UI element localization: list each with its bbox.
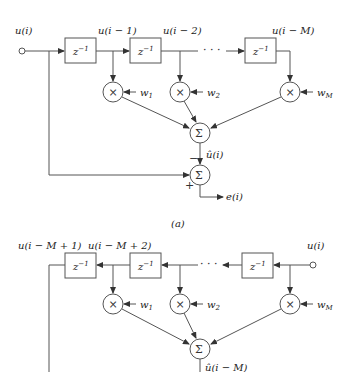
caption-a: (a) <box>171 218 185 229</box>
delay-block-b1: z−1 <box>65 253 96 278</box>
tap-label-m-plus-1: u(i − M + 1) <box>18 240 82 251</box>
ellipsis: · · · <box>203 44 220 57</box>
multiplier-b2: × <box>170 294 190 314</box>
multiplier-1: × <box>103 82 123 102</box>
svg-text:×: × <box>109 298 118 311</box>
summer-2: Σ <box>190 165 210 185</box>
tap-label-1: u(i − 1) <box>98 25 137 36</box>
tap-label-m: u(i − M) <box>272 25 315 36</box>
weight-m: wM <box>317 87 334 100</box>
multiplier-2: × <box>170 82 190 102</box>
weight-b1: w1 <box>140 299 153 312</box>
weight-1: w1 <box>140 87 153 100</box>
multiplier-bm: × <box>280 294 300 314</box>
prediction-filter-diagrams: u(i) · · · z−1 z−1 z−1 u(i − 1) u(i − 2)… <box>0 0 361 372</box>
input-node <box>19 48 25 54</box>
svg-text:×: × <box>176 86 185 99</box>
multiplier-b1: × <box>103 294 123 314</box>
delay-block-1: z−1 <box>65 38 96 63</box>
output-label: e(i) <box>226 191 243 202</box>
svg-text:Σ: Σ <box>195 127 203 140</box>
svg-text:×: × <box>286 298 295 311</box>
ellipsis-b: · · · <box>200 258 217 271</box>
estimate-label-b: û(i − M) <box>205 362 248 372</box>
tap-label-2: u(i − 2) <box>163 25 202 36</box>
summer-1: Σ <box>190 123 210 143</box>
svg-text:×: × <box>109 86 118 99</box>
svg-text:×: × <box>286 86 295 99</box>
tap-label-m-plus-2: u(i − M + 2) <box>88 240 152 251</box>
svg-text:Σ: Σ <box>195 169 203 182</box>
delay-block-m: z−1 <box>245 38 276 63</box>
summer-b: Σ <box>190 339 210 359</box>
estimate-label: û(i) <box>206 149 224 160</box>
backward-predictor-diagram: u(i − M + 1) u(i − M + 2) u(i) · · · z−1… <box>18 240 334 372</box>
svg-text:×: × <box>176 298 185 311</box>
delay-block-b2: z−1 <box>130 253 161 278</box>
svg-text:Σ: Σ <box>195 343 203 356</box>
forward-predictor-diagram: u(i) · · · z−1 z−1 z−1 u(i − 1) u(i − 2)… <box>15 25 334 229</box>
multiplier-m: × <box>280 82 300 102</box>
minus-sign: − <box>189 152 198 165</box>
delay-block-bm: z−1 <box>242 253 273 278</box>
input-label-b: u(i) <box>307 240 325 251</box>
input-label: u(i) <box>15 25 33 36</box>
weight-bm: wM <box>317 299 334 312</box>
delay-block-2: z−1 <box>130 38 161 63</box>
weight-2: w2 <box>207 87 221 100</box>
input-node-b <box>310 262 316 268</box>
weight-b2: w2 <box>207 299 221 312</box>
